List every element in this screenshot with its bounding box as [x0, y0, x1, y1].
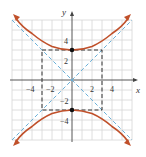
y-tick-2: 2: [64, 57, 68, 66]
vertex-upper: [70, 48, 75, 53]
x-tick-neg2: −2: [46, 85, 55, 94]
y-tick-4: 4: [64, 37, 68, 46]
y-tick-neg2: −2: [60, 97, 69, 106]
vertex-lower: [70, 108, 75, 113]
x-axis-arrow-icon: [133, 78, 138, 82]
axes: [10, 14, 136, 142]
y-axis-label: y: [61, 7, 66, 17]
hyperbola-graph: −4 −2 2 4 4 2 −2 −4 x y: [0, 0, 146, 157]
y-axis-arrow-icon: [70, 11, 74, 16]
x-tick-neg4: −4: [26, 85, 35, 94]
center-point: [71, 79, 73, 81]
x-tick-2: 2: [90, 85, 94, 94]
x-axis-label: x: [135, 85, 140, 95]
x-tick-4: 4: [110, 85, 114, 94]
y-tick-neg4: −4: [60, 117, 69, 126]
